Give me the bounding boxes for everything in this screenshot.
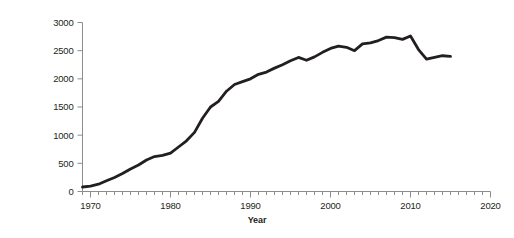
tick-label-group: 0500100015002000250030001970198019902000…: [53, 17, 501, 211]
y-tick-label: 1500: [53, 101, 73, 112]
axes-group: [78, 23, 491, 198]
y-tick-label: 2500: [53, 45, 73, 56]
chart-container: 0500100015002000250030001970198019902000…: [0, 0, 514, 238]
line-chart-plot: 0500100015002000250030001970198019902000…: [0, 0, 514, 238]
y-tick-label: 3000: [53, 17, 73, 28]
y-tick-label: 1000: [53, 130, 73, 141]
x-tick-label: 1980: [160, 200, 180, 211]
x-tick-label: 1990: [240, 200, 260, 211]
x-axis-title: Year: [0, 215, 514, 225]
x-tick-label: 2020: [480, 200, 500, 211]
y-tick-label: 2000: [53, 73, 73, 84]
y-tick-label: 500: [58, 158, 73, 169]
data-series-line: [83, 36, 451, 187]
x-tick-label: 2000: [320, 200, 340, 211]
y-axis-title: Generation (terawatt-hours): [8, 0, 30, 36]
x-tick-label: 2010: [400, 200, 420, 211]
x-tick-label: 1970: [80, 200, 100, 211]
y-tick-label: 0: [68, 186, 73, 197]
